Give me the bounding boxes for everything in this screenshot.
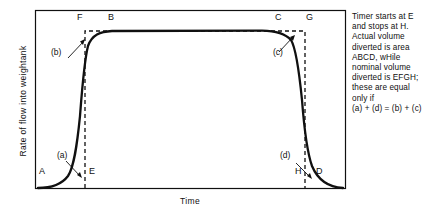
point-label-H: H: [295, 166, 302, 176]
leader-line-b: [68, 41, 84, 58]
caption-line: Actual volume: [352, 32, 440, 42]
y-axis-title: Rate of flow into weightank: [18, 26, 28, 176]
caption-line: these are equal: [352, 83, 440, 93]
point-label-C: C: [275, 12, 282, 22]
area-label-a: (a): [57, 150, 67, 160]
caption-line: and stops at H.: [352, 22, 440, 32]
caption-block: Timer starts at E and stops at H. Actual…: [352, 12, 440, 114]
arrowhead-a: [77, 172, 82, 178]
caption-line: Timer starts at E: [352, 12, 440, 22]
area-label-d: (d): [280, 150, 290, 160]
caption-line: only if: [352, 94, 440, 104]
point-label-E: E: [89, 166, 95, 176]
point-label-B: B: [108, 12, 114, 22]
caption-line: ABCD, wHile: [352, 53, 440, 63]
caption-line: nominal volume: [352, 63, 440, 73]
area-label-b: (b): [51, 47, 61, 57]
point-label-A: A: [39, 166, 45, 176]
nominal-rectangle-EFGH: [85, 31, 305, 188]
x-axis-title: Time: [150, 196, 230, 206]
point-label-G: G: [306, 12, 313, 22]
caption-line: diverted is area: [352, 43, 440, 53]
arrowhead-d: [307, 173, 312, 179]
flow-rate-diagram: A E F B C G D H (b) (a) (c) (d) Rate of …: [0, 0, 440, 222]
point-label-D: D: [316, 166, 323, 176]
area-label-c: (c): [273, 47, 283, 57]
point-label-F: F: [77, 12, 83, 22]
caption-line: diverted is EFGH;: [352, 73, 440, 83]
caption-equation: (a) + (d) = (b) + (c): [352, 104, 440, 114]
